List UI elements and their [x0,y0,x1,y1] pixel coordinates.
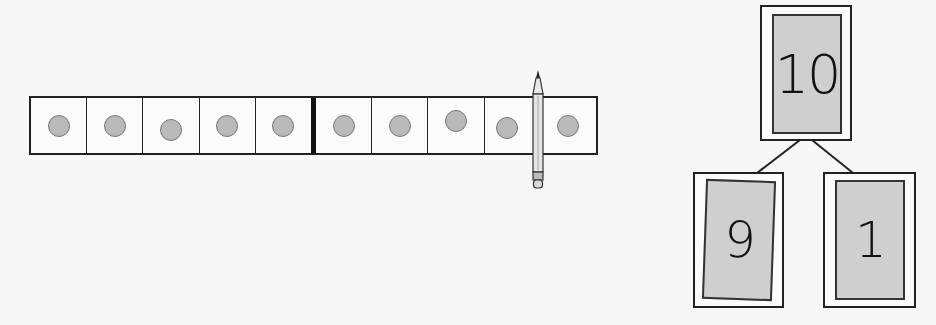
part-card-left: 9 [693,172,784,308]
part-number-right: 1 [855,211,885,269]
part-number-left: 9 [723,210,755,269]
part-card-right: 1 [823,172,916,308]
whole-card: 10 [760,5,852,141]
part-card-right-face: 1 [835,180,905,300]
part-card-left-face: 9 [702,179,776,301]
whole-card-face: 10 [772,14,842,134]
whole-number: 10 [775,43,840,106]
